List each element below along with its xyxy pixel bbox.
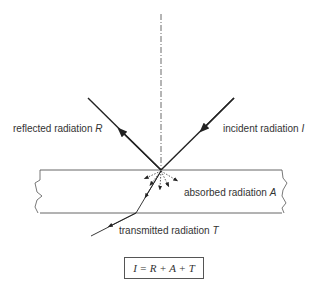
incident-label-text: incident radiation — [223, 123, 301, 134]
transmitted-symbol: T — [212, 225, 218, 236]
absorbed-label: absorbed radiation A — [184, 187, 276, 198]
reflected-ray — [88, 98, 161, 170]
reflected-label: reflected radiation R — [13, 123, 103, 134]
absorbed-scatter — [146, 171, 176, 188]
reflected-symbol: R — [95, 123, 102, 134]
diagram-canvas — [0, 0, 319, 285]
transmitted-label: transmitted radiation T — [119, 225, 219, 236]
absorbed-symbol: A — [270, 187, 277, 198]
absorbed-label-text: absorbed radiation — [184, 187, 270, 198]
reflected-label-text: reflected radiation — [13, 123, 95, 134]
incident-label: incident radiation I — [223, 123, 304, 134]
equation-box: I = R + A + T — [124, 257, 204, 279]
equation-text: I = R + A + T — [133, 262, 195, 274]
transmitted-label-text: transmitted radiation — [119, 225, 212, 236]
incident-ray — [161, 98, 234, 170]
incident-symbol: I — [301, 123, 304, 134]
